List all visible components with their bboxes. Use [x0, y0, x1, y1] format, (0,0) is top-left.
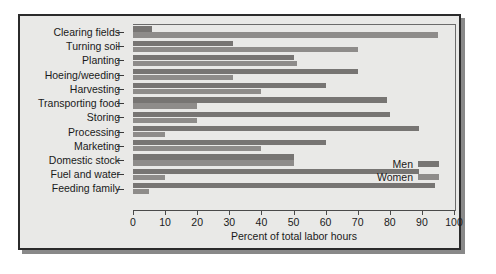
y-tick-mark: [117, 60, 124, 61]
x-tick-label: 20: [191, 216, 203, 228]
x-tick-mark: [229, 210, 230, 215]
bar-women: [133, 61, 297, 66]
bar-men: [133, 69, 358, 74]
category-label: Planting: [20, 53, 124, 67]
y-tick-mark: [117, 174, 124, 175]
x-tick-mark: [454, 210, 455, 215]
bar-men: [133, 112, 390, 117]
category-label: Feeding family: [20, 181, 124, 195]
bar-women: [133, 75, 233, 80]
x-tick-mark: [326, 210, 327, 215]
y-tick-mark: [117, 46, 124, 47]
bar-men: [133, 183, 435, 188]
legend-label: Women: [377, 171, 413, 183]
bar-men: [133, 169, 419, 174]
y-tick-mark: [117, 32, 124, 33]
x-tick-mark: [197, 210, 198, 215]
x-tick-label: 0: [130, 216, 136, 228]
bar-women: [133, 160, 294, 165]
x-tick-mark: [390, 210, 391, 215]
bar-men: [133, 140, 326, 145]
x-tick-label: 40: [256, 216, 268, 228]
bar-group: [133, 68, 454, 82]
bar-women: [133, 32, 438, 37]
x-tick-mark: [261, 210, 262, 215]
bar-group: [133, 110, 454, 124]
x-tick-mark: [294, 210, 295, 215]
category-label: Transporting food: [20, 96, 124, 110]
y-tick-mark: [117, 89, 124, 90]
y-tick-mark: [117, 75, 124, 76]
bar-men: [133, 55, 294, 60]
bar-women: [133, 118, 197, 123]
bar-group: [133, 96, 454, 110]
category-label: Hoeing/weeding: [20, 68, 124, 82]
bar-men: [133, 83, 326, 88]
category-label: Turning soil: [20, 39, 124, 53]
category-label: Fuel and water: [20, 167, 124, 181]
bar-group: [133, 181, 454, 195]
bar-group: [133, 125, 454, 139]
category-label: Domestic stock: [20, 153, 124, 167]
bar-group: [133, 53, 454, 67]
bar-men: [133, 26, 152, 31]
bar-women: [133, 103, 197, 108]
x-tick-label: 10: [159, 216, 171, 228]
x-tick-mark: [165, 210, 166, 215]
bar-women: [133, 175, 165, 180]
bar-men: [133, 97, 387, 102]
category-label: Harvesting: [20, 82, 124, 96]
bar-men: [133, 154, 294, 159]
x-tick-label: 60: [320, 216, 332, 228]
x-axis-title: Percent of total labor hours: [133, 230, 455, 242]
bar-women: [133, 146, 261, 151]
x-tick-label: 100: [445, 216, 463, 228]
bar-women: [133, 89, 261, 94]
chart-figure: Clearing fieldsTurning soilPlantingHoein…: [18, 14, 461, 250]
category-axis-labels: Clearing fieldsTurning soilPlantingHoein…: [20, 25, 124, 210]
x-tick-mark: [422, 210, 423, 215]
category-label: Storing: [20, 110, 124, 124]
y-tick-mark: [117, 160, 124, 161]
bar-men: [133, 41, 233, 46]
y-tick-mark: [117, 132, 124, 133]
legend-item: Men: [377, 157, 439, 170]
x-tick-label: 30: [223, 216, 235, 228]
x-tick-mark: [133, 210, 134, 215]
chart-legend: MenWomen: [377, 157, 439, 183]
x-tick-label: 80: [384, 216, 396, 228]
bar-women: [133, 47, 358, 52]
bar-group: [133, 25, 454, 39]
bar-group: [133, 139, 454, 153]
bar-group: [133, 82, 454, 96]
bar-group: [133, 39, 454, 53]
category-label: Processing: [20, 125, 124, 139]
x-tick-label: 50: [288, 216, 300, 228]
y-tick-mark: [117, 117, 124, 118]
y-tick-mark: [117, 189, 124, 190]
women-swatch: [418, 174, 439, 180]
x-tick-mark: [358, 210, 359, 215]
y-tick-mark: [117, 103, 124, 104]
legend-item: Women: [377, 170, 439, 183]
category-label: Marketing: [20, 139, 124, 153]
bar-men: [133, 126, 419, 131]
bar-women: [133, 189, 149, 194]
y-tick-mark: [117, 146, 124, 147]
x-tick-label: 70: [352, 216, 364, 228]
bar-women: [133, 132, 165, 137]
x-tick-label: 90: [416, 216, 428, 228]
category-label: Clearing fields: [20, 25, 124, 39]
men-swatch: [418, 161, 439, 167]
legend-label: Men: [393, 158, 413, 170]
